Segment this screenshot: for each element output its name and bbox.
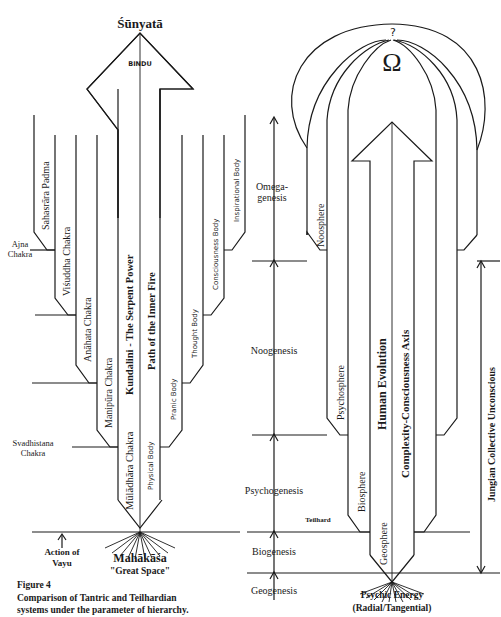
svadhistana-label-2: Chakra bbox=[21, 448, 46, 458]
radial-tangential-label: (Radial/Tangential) bbox=[353, 603, 432, 614]
bindu-label: BINDU bbox=[128, 60, 152, 68]
teilhardian-system: ? Ω Human Evolution Complexity-Conscious… bbox=[245, 24, 500, 614]
tantric-teilhardian-diagram: Śūnyatā BINDU Sahasrāra Padma Viśuddha C… bbox=[0, 0, 501, 617]
caption-title: Figure 4 bbox=[17, 580, 51, 590]
ajna-label-2: Chakra bbox=[8, 249, 33, 259]
human-evolution-label: Human Evolution bbox=[375, 338, 389, 430]
chakra-label-anahata: Anāhata Chakra bbox=[82, 297, 93, 362]
genesis-label-omega-2: genesis bbox=[257, 192, 287, 203]
omega-question-mark: ? bbox=[390, 26, 396, 39]
body-label-inspirational: Inspirational Body bbox=[233, 159, 241, 222]
vayu-label-1: Action of bbox=[44, 547, 80, 557]
figure-caption: Figure 4 Comparison of Tantric and Teilh… bbox=[17, 580, 189, 615]
genesis-label-noogenesis: Noogenesis bbox=[251, 345, 298, 356]
sphere-label-psychosphere: Psychosphere bbox=[335, 364, 346, 420]
caption-line-2: systems under the parameter of hierarchy… bbox=[17, 605, 189, 615]
body-label-pranic: Pranic Body bbox=[170, 379, 178, 420]
ajna-label-1: Ajna bbox=[12, 239, 29, 249]
genesis-label-omega-1: Omega- bbox=[256, 181, 288, 192]
complexity-axis-label: Complexity-Consciousness Axis bbox=[399, 329, 411, 478]
genesis-label-biogenesis: Biogenesis bbox=[252, 546, 296, 557]
tantric-system: Śūnyatā BINDU Sahasrāra Padma Viśuddha C… bbox=[8, 16, 245, 576]
outer-dome bbox=[292, 24, 486, 150]
omega-symbol: Ω bbox=[382, 48, 401, 77]
psychic-energy-label: Psychic Energy bbox=[361, 590, 424, 600]
caption-line-1: Comparison of Tantric and Teilhardian bbox=[17, 593, 177, 603]
chakra-label-manipura: Manipūra Chakra bbox=[103, 357, 114, 428]
sphere-label-biosphere: Biosphere bbox=[356, 471, 367, 512]
chakra-label-visuddha: Viśuddha Chakra bbox=[61, 226, 72, 296]
body-label-consciousness: Consciousness Body bbox=[212, 219, 220, 290]
chakra-label-sahasrara: Sahasrāra Padma bbox=[40, 161, 51, 230]
vayu-label-2: Vayu bbox=[52, 558, 72, 568]
body-label-thought: Thought Body bbox=[191, 309, 199, 359]
jungian-label: Jungian Collective Unconscious bbox=[486, 367, 497, 502]
teilhard-label: Teilhard bbox=[305, 516, 331, 524]
great-space-label: "Great Space" bbox=[110, 566, 170, 576]
mahakasa-label: Mahākāśa bbox=[113, 551, 166, 565]
sunyata-label: Śūnyatā bbox=[117, 16, 163, 31]
chakra-label-muladhara: Mūlādhāra Chakra bbox=[124, 431, 135, 510]
svadhistana-label-1: Svadhistana bbox=[12, 438, 53, 448]
sphere-label-geosphere: Geosphere bbox=[378, 522, 389, 565]
body-label-physical: Physical Body bbox=[147, 442, 155, 490]
genesis-label-geogenesis: Geogenesis bbox=[251, 585, 297, 596]
sphere-label-noosphere: Noosphere bbox=[315, 203, 326, 247]
inner-fire-label: Path of the Inner Fire bbox=[146, 272, 157, 370]
genesis-label-psychogenesis: Psychogenesis bbox=[245, 485, 303, 496]
kundalini-label: Kundalini - The Serpent Power bbox=[124, 254, 135, 395]
